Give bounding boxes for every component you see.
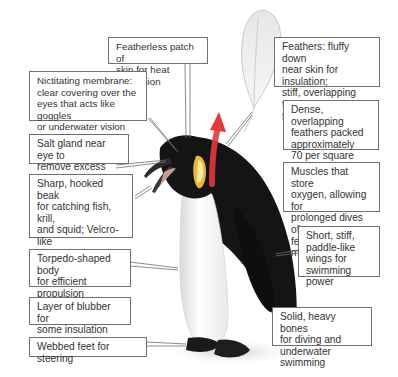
- callout-muscles: Muscles that store oxygen, allowing for …: [283, 162, 380, 212]
- callout-beak: Sharp, hooked beak for catching fish, kr…: [29, 174, 133, 238]
- callout-blubber: Layer of blubber for some insulation: [29, 297, 131, 325]
- callout-bones: Solid, heavy bones for diving and underw…: [272, 307, 372, 346]
- callout-salt-gland: Salt gland near eye to remove excess sal…: [29, 134, 129, 164]
- callout-feathers: Feathers: fluffy down near skin for insu…: [274, 37, 380, 87]
- callout-dense-feathers: Dense, overlapping feathers packed appro…: [283, 100, 379, 150]
- callout-nictitating-membrane: Nictitating membrane: clear covering ove…: [29, 71, 147, 121]
- callout-torpedo-body: Torpedo-shaped body for efficient propul…: [29, 249, 131, 287]
- callout-wings: Short, stiff, paddle-like wings for swim…: [298, 226, 380, 277]
- callout-webbed-feet: Webbed feet for steering: [29, 337, 147, 357]
- callout-featherless-patch: Featherless patch of skin for heat dispe…: [108, 37, 208, 64]
- penguin-anatomy-diagram: Featherless patch of skin for heat dispe…: [0, 0, 398, 377]
